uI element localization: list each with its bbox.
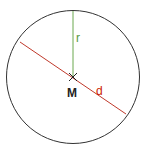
radius-label: r	[76, 31, 80, 45]
circle-diagram: r d M	[0, 0, 144, 153]
center-label: M	[67, 86, 77, 100]
diameter-label: d	[96, 84, 103, 98]
